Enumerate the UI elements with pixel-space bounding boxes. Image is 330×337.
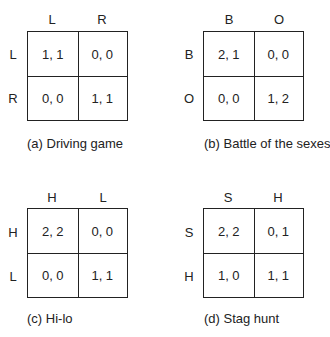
- column-label: O: [254, 12, 304, 27]
- row-label: H: [181, 269, 197, 284]
- payoff-cell: 1, 1: [78, 253, 128, 297]
- game-caption: (b) Battle of the sexes: [204, 136, 330, 151]
- row-label: R: [5, 91, 21, 106]
- game-caption: (d) Stag hunt: [204, 311, 279, 326]
- payoff-matrix: 2, 1 0, 0 0, 0 1, 2: [203, 31, 304, 121]
- column-label: S: [203, 190, 253, 205]
- row-label: L: [5, 47, 21, 62]
- payoff-cell: 0, 0: [78, 32, 128, 76]
- column-label: B: [204, 12, 254, 27]
- row-label: O: [181, 91, 197, 106]
- column-label: R: [77, 12, 127, 27]
- payoff-cell: 0, 0: [78, 209, 128, 253]
- payoff-cell: 2, 2: [28, 209, 78, 253]
- payoff-cell: 1, 0: [204, 253, 254, 297]
- payoff-cell: 0, 0: [28, 253, 78, 297]
- payoff-matrix: 2, 2 0, 1 1, 0 1, 1: [203, 208, 304, 298]
- game-stag-hunt: S H S H 2, 2 0, 1 1, 0 1, 1 (d) Stag hun…: [160, 170, 320, 337]
- payoff-cell: 1, 2: [254, 76, 304, 120]
- payoff-cell: 1, 1: [28, 32, 78, 76]
- game-caption: (c) Hi-lo: [27, 311, 73, 326]
- game-hi-lo: H L H L 2, 2 0, 0 0, 0 1, 1 (c) Hi-lo: [0, 170, 160, 337]
- payoff-matrix: 1, 1 0, 0 0, 0 1, 1: [27, 31, 128, 121]
- payoff-cell: 0, 0: [254, 32, 304, 76]
- payoff-cell: 0, 0: [28, 76, 78, 120]
- payoff-cell: 1, 1: [78, 76, 128, 120]
- payoff-cell: 0, 0: [204, 76, 254, 120]
- row-label: S: [181, 225, 197, 240]
- column-label: L: [78, 190, 128, 205]
- column-label: H: [253, 190, 303, 205]
- game-caption: (a) Driving game: [27, 136, 123, 151]
- payoff-cell: 2, 1: [204, 32, 254, 76]
- game-driving: L R L R 1, 1 0, 0 0, 0 1, 1 (a) Driving …: [0, 0, 160, 168]
- game-battle-of-the-sexes: B O B O 2, 1 0, 0 0, 0 1, 2 (b) Battle o…: [160, 0, 320, 168]
- column-label: L: [27, 12, 77, 27]
- payoff-matrix: 2, 2 0, 0 0, 0 1, 1: [27, 208, 128, 298]
- payoff-cell: 1, 1: [254, 253, 304, 297]
- payoff-cell: 2, 2: [204, 209, 254, 253]
- row-label: L: [5, 269, 21, 284]
- row-label: H: [5, 225, 21, 240]
- payoff-cell: 0, 1: [254, 209, 304, 253]
- column-label: H: [27, 190, 77, 205]
- row-label: B: [181, 47, 197, 62]
